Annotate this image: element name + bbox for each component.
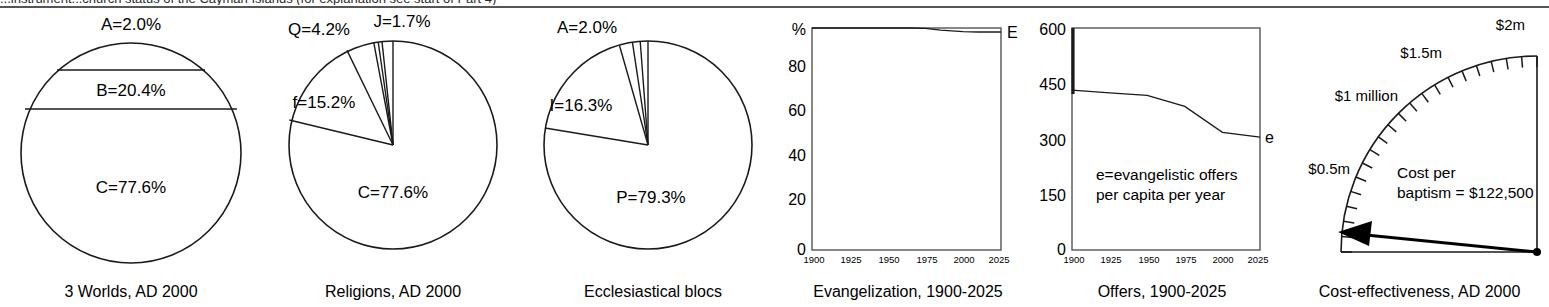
- panel-caption-offers: Offers, 1900-2025: [1034, 283, 1290, 301]
- y-axis-top-label: %: [792, 21, 806, 38]
- y-tick-label-450: 450: [1039, 76, 1066, 93]
- x-tick-label-1950: 1950: [1138, 254, 1159, 265]
- religions-pie-chart: Q=4.2% J=1.7% f=15.2% C=77.6%: [262, 8, 524, 283]
- y-tick-label-20: 20: [788, 191, 806, 208]
- series-line-e: [1072, 90, 1260, 137]
- segment-label-c: C=77.6%: [96, 178, 166, 197]
- segment-label-f: f=15.2%: [293, 93, 356, 112]
- figure-panel-row: A=2.0% B=20.4% C=77.6% 3 Worlds, AD 2000…: [0, 8, 1549, 307]
- x-tick-label-1975: 1975: [1175, 254, 1196, 265]
- panel-ecclesiastical-blocs: A=2.0% I=16.3% P=79.3% Ecclesiastical bl…: [524, 8, 782, 307]
- readout-line-2: baptism = $122,500: [1397, 184, 1534, 201]
- circle-outline: [21, 43, 241, 263]
- x-tick-label-1975: 1975: [916, 254, 937, 265]
- y-tick-label-600: 600: [1039, 21, 1066, 38]
- annotation-line-2: per capita per year: [1096, 186, 1225, 203]
- y-tick-label-60: 60: [788, 102, 806, 119]
- y-tick-label-300: 300: [1039, 132, 1066, 149]
- panel-offers: 600 450 300 150 0 1900 1925 1950 1975 20…: [1034, 8, 1290, 307]
- slice-edge-i: [545, 128, 648, 145]
- x-tick-label-1925: 1925: [840, 254, 861, 265]
- readout-line-1: Cost per: [1397, 164, 1456, 181]
- panel-caption-religions: Religions, AD 2000: [262, 283, 524, 301]
- ecclesiastical-blocs-pie-chart: A=2.0% I=16.3% P=79.3%: [524, 8, 782, 283]
- gauge-tick-label-1-5m: $1.5m: [1400, 44, 1442, 61]
- panel-religions: Q=4.2% J=1.7% f=15.2% C=77.6% Religions,…: [262, 8, 524, 307]
- panel-caption-evangelization: Evangelization, 1900-2025: [782, 283, 1034, 301]
- segment-label-c: C=77.6%: [358, 183, 428, 202]
- x-tick-label-1900: 1900: [1063, 254, 1084, 265]
- offers-line-chart: 600 450 300 150 0 1900 1925 1950 1975 20…: [1034, 8, 1290, 283]
- x-tick-label-1925: 1925: [1100, 254, 1121, 265]
- panel-caption-ecclesiastical-blocs: Ecclesiastical blocs: [524, 283, 782, 301]
- x-tick-label-2000: 2000: [1212, 254, 1233, 265]
- slice-edge-f: [289, 120, 393, 145]
- y-tick-label-80: 80: [788, 58, 806, 75]
- panel-three-worlds: A=2.0% B=20.4% C=77.6% 3 Worlds, AD 2000: [0, 8, 262, 307]
- gauge-tick-label-1-million: $1 million: [1335, 87, 1398, 104]
- gauge-tick-label-2m: $2m: [1496, 16, 1525, 33]
- panel-cost-effectiveness: $2m $1.5m $1 million $0.5m Cost per bapt…: [1290, 8, 1549, 307]
- x-tick-label-2025: 2025: [1247, 254, 1268, 265]
- annotation-line-1: e=evangelistic offers: [1096, 166, 1238, 183]
- plot-frame: [1072, 28, 1260, 250]
- panel-evangelization: % 80 60 40 20 0 1900 1925 1950 1975 2000…: [782, 8, 1034, 307]
- cost-effectiveness-gauge: $2m $1.5m $1 million $0.5m Cost per bapt…: [1290, 8, 1549, 283]
- plot-frame: [812, 28, 1001, 250]
- gauge-needle: [1356, 234, 1537, 252]
- three-worlds-band-chart: A=2.0% B=20.4% C=77.6%: [0, 8, 262, 283]
- segment-label-q: Q=4.2%: [288, 20, 350, 39]
- clipped-top-caption: ...instrument...church status of the Cay…: [0, 0, 1549, 5]
- segment-label-p: P=79.3%: [616, 188, 685, 207]
- y-tick-label-40: 40: [788, 147, 806, 164]
- series-end-label-e: e: [1265, 129, 1274, 146]
- evangelization-line-chart: % 80 60 40 20 0 1900 1925 1950 1975 2000…: [782, 8, 1034, 283]
- segment-label-b: B=20.4%: [96, 81, 165, 100]
- x-tick-label-1900: 1900: [803, 254, 824, 265]
- x-tick-label-2000: 2000: [953, 254, 974, 265]
- x-tick-label-1950: 1950: [878, 254, 899, 265]
- panel-caption-cost-effectiveness: Cost-effectiveness, AD 2000: [1290, 283, 1549, 301]
- segment-label-j: J=1.7%: [373, 12, 430, 31]
- y-tick-label-150: 150: [1039, 187, 1066, 204]
- segment-label-a: A=2.0%: [101, 15, 161, 34]
- series-end-label-e: E: [1007, 24, 1018, 41]
- slice-edge-unlabelled-2: [632, 42, 648, 145]
- x-tick-label-2025: 2025: [988, 254, 1009, 265]
- panel-caption-three-worlds: 3 Worlds, AD 2000: [0, 283, 262, 301]
- gauge-tick-label-0-5m: $0.5m: [1308, 160, 1350, 177]
- segment-label-a: A=2.0%: [557, 18, 617, 37]
- segment-label-i: I=16.3%: [550, 96, 613, 115]
